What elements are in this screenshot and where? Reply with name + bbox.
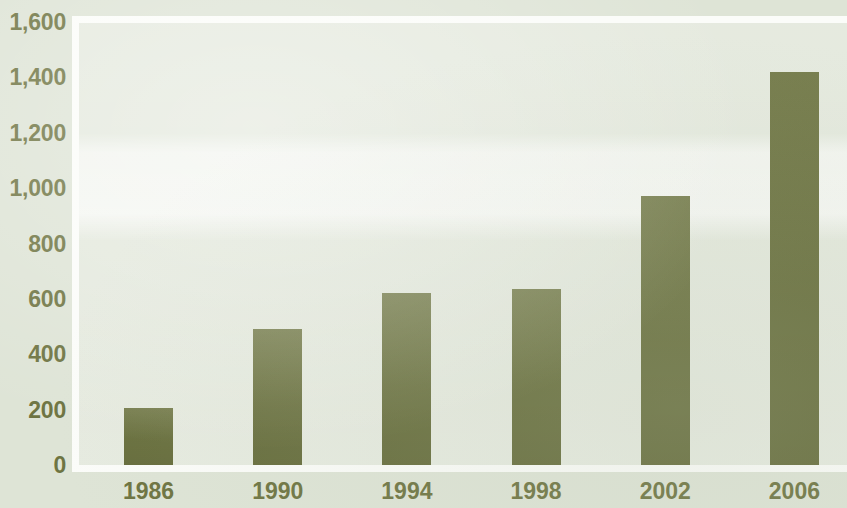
x-axis-tick-label: 1986 (123, 478, 174, 505)
y-axis-tick-label: 800 (2, 230, 66, 257)
x-axis-baseline (72, 465, 847, 472)
bar (641, 196, 690, 465)
bar (253, 329, 302, 465)
chart-figure: 02004006008001,0001,2001,4001,600 198619… (0, 0, 847, 508)
y-axis-tick-label: 1,400 (2, 64, 66, 91)
x-axis-tick-label: 1990 (252, 478, 303, 505)
y-axis-tick-label: 1,600 (2, 9, 66, 36)
y-axis-tick-label: 1,200 (2, 119, 66, 146)
y-axis-tick-label: 200 (2, 396, 66, 423)
x-axis-tick-label: 2006 (769, 478, 820, 505)
y-axis-labels: 02004006008001,0001,2001,4001,600 (0, 0, 66, 508)
bar (512, 289, 561, 465)
bar (124, 408, 173, 465)
bar-series (72, 16, 847, 465)
x-axis-tick-label: 1998 (510, 478, 561, 505)
y-axis-tick-label: 1,000 (2, 175, 66, 202)
y-axis-tick-label: 400 (2, 341, 66, 368)
y-axis-tick-label: 0 (2, 452, 66, 479)
x-axis-tick-label: 1994 (381, 478, 432, 505)
bar (382, 293, 431, 465)
y-axis-tick-label: 600 (2, 285, 66, 312)
bar (770, 72, 819, 465)
x-axis-tick-label: 2002 (640, 478, 691, 505)
x-axis-labels: 198619901994199820022006 (72, 472, 847, 508)
